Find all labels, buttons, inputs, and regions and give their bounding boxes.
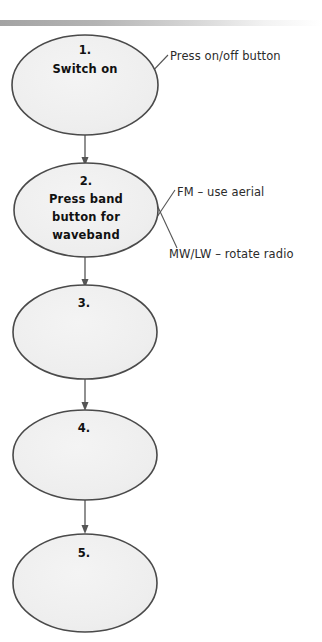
flow-node-5-number: 5. [78, 546, 90, 560]
flow-node-4[interactable]: 4. [13, 410, 157, 500]
flow-node-2-line-1: Press band [49, 192, 123, 206]
flow-node-4-number: 4. [78, 421, 90, 435]
flow-node-1-line-1: Switch on [52, 62, 117, 76]
flow-node-2[interactable]: 2. Press band button for waveband [14, 163, 158, 257]
annotation-press-on-off-button: Press on/off button [170, 49, 281, 63]
flow-node-3[interactable]: 3. [13, 285, 157, 379]
flow-node-2-line-3: waveband [52, 228, 120, 242]
flow-node-3-number: 3. [78, 296, 90, 310]
annotation-fm-use-aerial: FM – use aerial [177, 185, 264, 199]
connector-1-to-2 [82, 135, 89, 166]
flow-node-1[interactable]: 1. Switch on [12, 35, 158, 135]
connector-2-to-3 [82, 257, 89, 288]
connector-4-to-5 [82, 500, 89, 534]
flowchart-page: 1. Switch on 2. Press band button for wa… [0, 0, 322, 642]
flow-node-2-line-2: button for [52, 210, 120, 224]
flow-node-2-number: 2. [80, 174, 92, 188]
flow-node-5[interactable]: 5. [13, 534, 157, 632]
connector-3-to-4 [82, 379, 89, 411]
flow-node-1-number: 1. [79, 43, 91, 57]
annotation-mw-lw-rotate-radio: MW/LW – rotate radio [169, 247, 294, 261]
flowchart-canvas: 1. Switch on 2. Press band button for wa… [0, 0, 322, 642]
